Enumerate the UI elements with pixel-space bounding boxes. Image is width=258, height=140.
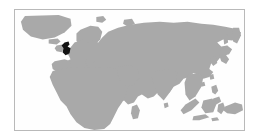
- map-frame: [14, 9, 245, 131]
- world-map-canvas: [15, 10, 244, 130]
- locator-map-figure: Locator map of the Eastern Hemisphere Un…: [0, 0, 258, 140]
